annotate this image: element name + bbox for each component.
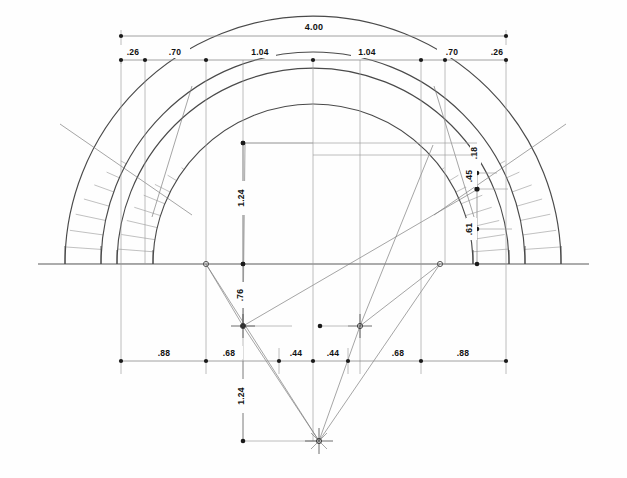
crosshair-left-center [231,314,255,338]
node-axis-left [241,262,246,267]
node-crown-left [241,141,246,146]
dim-top-26-right: .26 [491,47,503,57]
top-dimension-chain: .26 .70 1.04 1.04 .70 .26 [119,45,511,62]
dim-overall-span: 4.00 [305,22,323,32]
line-rightcenter-to-springing [360,264,440,326]
dim-vertical-124-lower: 1.24 [236,387,246,404]
line-leftcenter-to-right-haunch [243,189,478,326]
right-vertical-dimension-stack: .18 .45 .61 [464,142,512,266]
line-rightcenter-to-apex [319,326,360,441]
dim-right-45: .45 [464,170,474,182]
dim-bottom-88-right: .88 [457,348,469,358]
crosshair-right-center [348,314,372,338]
line-rightcenter-to-crown [360,145,433,326]
ray-upper-left-outer [60,124,192,215]
dim-top-104-left: 1.04 [251,47,268,57]
dim-bottom-44-right: .44 [327,348,339,358]
dim-top-70-left: .70 [169,47,181,57]
bottom-dimension-chain: .88 .68 .44 .44 .68 .88 [119,346,508,363]
dim-vertical-76: .76 [235,289,245,301]
ray-upper-right-outer [434,124,566,215]
dim-top-70-right: .70 [446,47,458,57]
dim-right-61: .61 [464,223,474,235]
node-right-center-leader [318,324,323,329]
dim-top-104-right: 1.04 [358,47,375,57]
drawing-canvas: 4.00 .26 .70 1.04 1.04 .70 .26 [0,0,627,478]
dim-bottom-44-left: .44 [290,348,302,358]
dim-top-26-left: .26 [127,47,139,57]
vertical-dimension-lower: 1.24 [235,361,319,443]
dim-bottom-68-right: .68 [392,348,404,358]
dim-bottom-88-left: .88 [158,348,170,358]
crosshair-apex-point [305,428,333,454]
dim-vertical-124-upper: 1.24 [236,189,246,206]
arch-drawing-svg: 4.00 .26 .70 1.04 1.04 .70 .26 [0,0,627,478]
vertical-dimension-upper: 1.24 [235,141,313,267]
projection-lines [121,60,506,441]
line-leftcenter-to-apex [243,326,319,441]
dim-bottom-68-left: .68 [223,348,235,358]
dim-right-18: .18 [469,147,479,159]
